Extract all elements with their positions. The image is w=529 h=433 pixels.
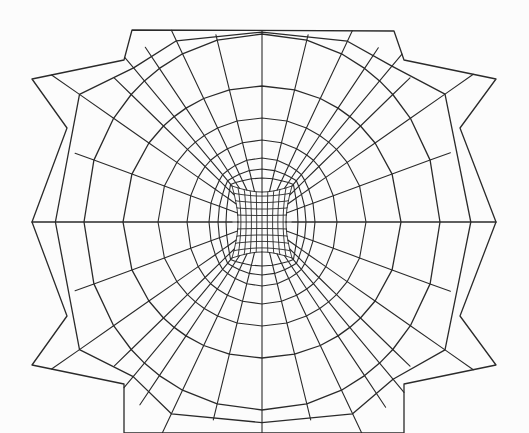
mesh-diagram (0, 0, 529, 433)
mesh-background (0, 0, 529, 433)
mesh-diagram-canvas (0, 0, 529, 433)
